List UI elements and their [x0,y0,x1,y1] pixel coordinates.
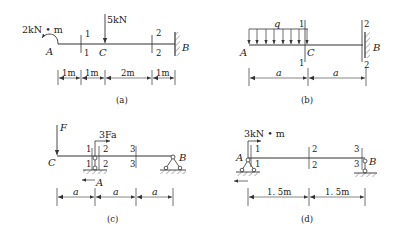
section-label: 1 [255,159,260,169]
figure-c: F C 3Fa A 1 1 2 2 3 3 [48,122,186,224]
section-label: 1 [84,48,89,58]
section-label: 1 [86,144,91,154]
section-label: 2 [103,159,108,169]
caption: (b) [301,95,313,105]
section-label: 1 [299,19,304,29]
force-label: F [59,122,68,133]
dimension-label: a [152,186,158,197]
dimension-label: 1. 5m [325,187,349,197]
section-label: 1 [85,29,90,39]
force-label: 5kN [107,14,127,25]
point-label-b: B [372,42,380,53]
section-label: 1 [86,159,91,169]
section-label: 1 [255,144,260,154]
figure-b: q A 1 1 C 2 2 B a a (b) [239,18,380,105]
point-label-c: C [48,157,56,168]
distributed-load-arrows-icon [249,29,307,44]
section-label: 2 [156,48,161,58]
dimension-label: a [113,186,119,197]
section-label: 3 [354,159,359,169]
caption: (d) [301,214,313,224]
point-label-b: B [178,152,186,163]
section-label: 3 [354,144,359,154]
point-label-b: B [181,42,189,53]
caption: (c) [107,214,118,224]
wall-hatch-icon [175,32,180,56]
section-label: 2 [364,60,369,70]
figure-a: 2kN • m A 5kN C 1 1 2 2 B 1m 1m 2 [22,14,189,105]
point-label-a: A [45,46,53,57]
section-label: 2 [312,144,317,154]
dimension-label: a [333,67,339,78]
section-label: 3 [130,144,135,154]
dimension-line [249,68,366,86]
moment-label: 3kN • m [244,128,285,139]
moment-label: 2kN • m [22,24,63,35]
dimension-label: 1m [62,68,75,78]
dimension-label: a [276,67,282,78]
load-label: q [274,18,280,29]
figure-d: 3kN • m A 1 1 2 2 3 3 [234,128,377,224]
moment-arrow-icon [42,34,58,44]
dimension-label: 1m [156,68,169,78]
point-label-c: C [307,47,315,58]
section-label: 2 [156,28,161,38]
section-label: 2 [364,19,369,29]
dimension-label: 1m [85,68,98,78]
wall-hatch-icon [365,32,370,58]
point-label-a: A [239,47,247,58]
section-label: 3 [130,159,135,169]
dimension-label: 2m [121,68,134,78]
moment-label: 3Fa [99,129,117,140]
point-label-b: B [368,156,376,167]
beam-diagrams: 2kN • m A 5kN C 1 1 2 2 B 1m 1m 2 [0,0,397,240]
dimension-label: a [73,186,79,197]
section-label: 1 [299,58,304,68]
point-label-a: A [235,152,243,163]
point-label-a: A [95,177,103,188]
caption: (a) [116,95,128,105]
point-label-c: C [99,47,107,58]
section-label: 2 [103,144,108,154]
section-label: 2 [312,160,317,170]
dimension-label: 1. 5m [267,187,291,197]
